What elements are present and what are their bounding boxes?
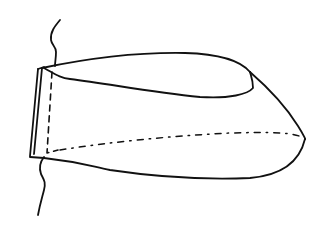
center-line [60, 133, 303, 150]
wall-break-line-bottom [38, 157, 45, 215]
wall-break-line-top [51, 20, 60, 66]
base-plate-bottom [30, 157, 44, 158]
top-outline [42, 53, 250, 72]
base-plate-inner [34, 68, 42, 154]
hidden-edge-vertical [47, 72, 58, 153]
bottom-outline [44, 139, 305, 179]
base-plate-outer [30, 69, 38, 156]
sketch-drawing [0, 0, 323, 234]
tip-outline [250, 72, 305, 139]
inner-upper-curve [44, 68, 253, 97]
